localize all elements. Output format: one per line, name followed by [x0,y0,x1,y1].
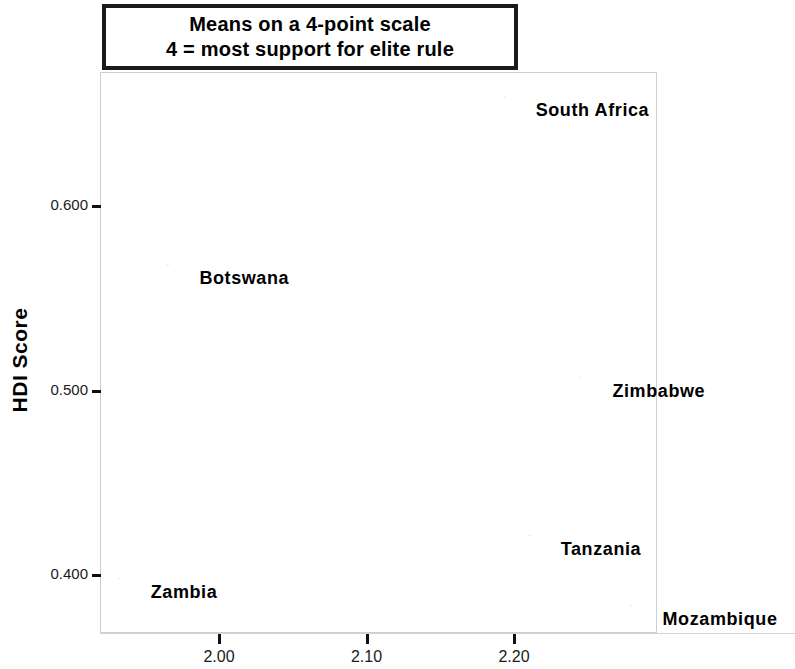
data-point-label: Mozambique [663,609,778,630]
x-tick-mark [513,634,516,644]
data-point-marker: · [162,258,173,271]
x-tick-label: 2.20 [479,648,549,666]
x-tick-label: 2.00 [184,648,254,666]
data-point-label: South Africa [536,100,650,121]
y-tick-mark [92,574,101,577]
chart-title-line-2: 4 = most support for elite rule [166,37,454,62]
x-tick-label: 2.10 [332,648,402,666]
x-tick-mark [366,634,369,644]
chart-title-box: Means on a 4-point scale 4 = most suppor… [102,4,518,70]
data-point-marker: · [499,90,510,103]
data-point-label: Zambia [151,582,218,603]
y-tick-mark [92,390,101,393]
scatter-chart: Means on a 4-point scale 4 = most suppor… [0,0,795,669]
data-point-marker: · [524,529,535,542]
data-point-label: Tanzania [561,539,641,560]
data-point-marker: · [575,371,586,384]
y-axis-title: HDI Score [8,280,32,440]
y-tick-mark [92,205,101,208]
data-point-marker: · [114,572,125,585]
x-tick-mark [218,634,221,644]
y-tick-label: 0.400 [22,565,88,582]
x-axis-line [100,633,795,634]
chart-title-line-1: Means on a 4-point scale [189,12,431,37]
data-point-label: Zimbabwe [612,381,705,402]
y-tick-label: 0.500 [22,381,88,398]
data-point-marker: · [626,599,637,612]
y-tick-label: 0.600 [22,196,88,213]
data-point-label: Botswana [199,268,289,289]
